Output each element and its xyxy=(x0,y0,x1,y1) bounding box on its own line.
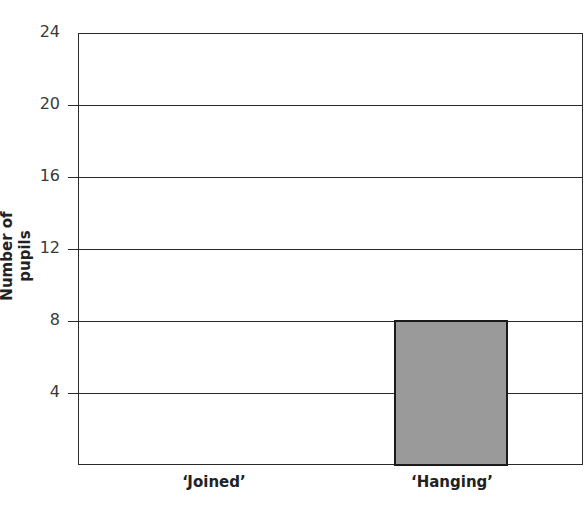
x-label-joined: ‘Joined’ xyxy=(134,473,294,491)
bar-hanging xyxy=(394,320,508,466)
y-tick-24: 24 xyxy=(2,22,60,41)
x-label-hanging: ‘Hanging’ xyxy=(372,473,532,491)
gridline-16 xyxy=(68,177,583,178)
gridline-12 xyxy=(68,249,583,250)
y-tick-20: 20 xyxy=(2,94,60,113)
y-axis-label: Number of pupils xyxy=(0,196,34,316)
gridline-20 xyxy=(68,105,583,106)
y-tick-4: 4 xyxy=(2,382,60,401)
y-tick-16: 16 xyxy=(2,166,60,185)
